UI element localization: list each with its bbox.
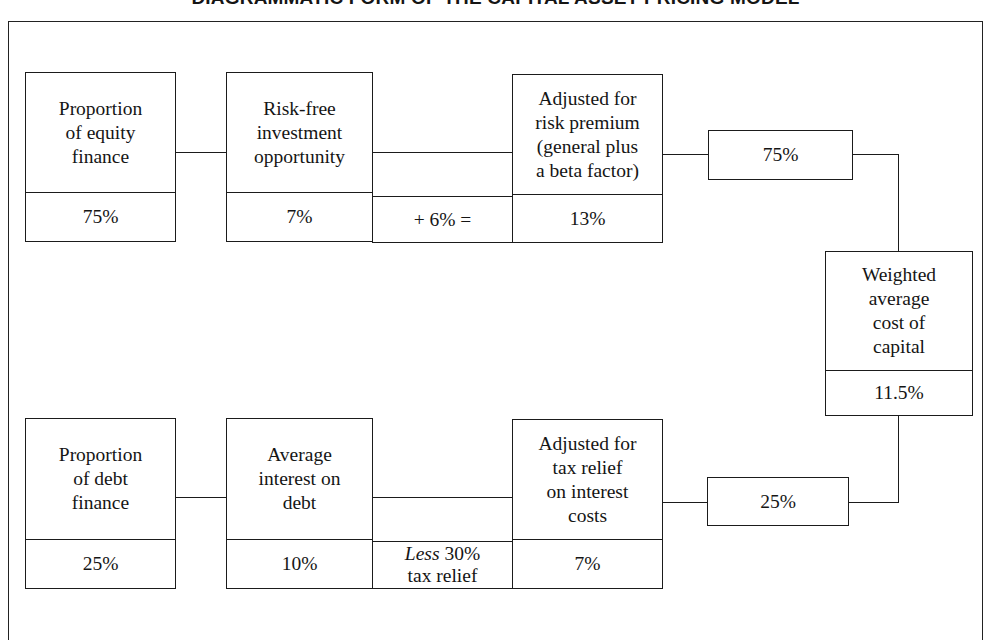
debt-operator-cell: Less 30%tax relief — [372, 541, 513, 589]
box-equity-weight-value: 75% — [763, 144, 799, 166]
connector-equity-drop — [898, 154, 899, 252]
box-debt-weight[interactable]: 25% — [707, 477, 849, 526]
box-average-interest-debt-label: Averageinterest ondebt — [227, 419, 372, 539]
box-adjusted-tax-relief-value: 7% — [513, 539, 662, 588]
box-equity-weight[interactable]: 75% — [708, 130, 853, 180]
box-risk-free-investment-value: 7% — [227, 192, 372, 241]
connector-debt-drop — [898, 415, 899, 503]
equity-operator-text: + 6% = — [414, 209, 472, 231]
box-proportion-equity[interactable]: Proportionof equityfinance 75% — [25, 72, 176, 242]
box-adjusted-tax-relief-label: Adjusted fortax reliefon interestcosts — [513, 420, 662, 539]
box-proportion-debt-value: 25% — [26, 539, 175, 588]
connector-equity-2 — [371, 152, 513, 153]
box-proportion-equity-label: Proportionof equityfinance — [26, 73, 175, 192]
box-average-interest-debt-value: 10% — [227, 539, 372, 588]
box-average-interest-debt[interactable]: Averageinterest ondebt 10% — [226, 418, 373, 589]
box-weighted-average-cost-of-capital[interactable]: Weightedaveragecost ofcapital 11.5% — [825, 251, 973, 416]
connector-equity-3 — [661, 154, 709, 155]
box-adjusted-risk-premium[interactable]: Adjusted forrisk premium(general plusa b… — [512, 74, 663, 243]
connector-debt-3 — [661, 502, 709, 503]
wacc-label: Weightedaveragecost ofcapital — [826, 252, 972, 370]
wacc-value: 11.5% — [826, 370, 972, 415]
connector-equity-1 — [175, 152, 227, 153]
box-risk-free-investment-label: Risk-freeinvestmentopportunity — [227, 73, 372, 192]
debt-operator-emphasis: Less — [405, 543, 440, 564]
box-proportion-debt-label: Proportionof debtfinance — [26, 419, 175, 539]
equity-operator-cell: + 6% = — [372, 196, 513, 243]
debt-operator-text: Less 30%tax relief — [405, 543, 480, 587]
box-debt-weight-value: 25% — [760, 491, 796, 513]
connector-debt-1 — [175, 497, 227, 498]
box-adjusted-tax-relief[interactable]: Adjusted fortax reliefon interestcosts 7… — [512, 419, 663, 589]
diagram-page: DIAGRAMMATIC FORM OF THE CAPITAL ASSET P… — [0, 0, 991, 640]
box-adjusted-risk-premium-label: Adjusted forrisk premium(general plusa b… — [513, 75, 662, 194]
page-title: DIAGRAMMATIC FORM OF THE CAPITAL ASSET P… — [0, 0, 991, 9]
box-risk-free-investment[interactable]: Risk-freeinvestmentopportunity 7% — [226, 72, 373, 242]
box-adjusted-risk-premium-value: 13% — [513, 194, 662, 242]
connector-debt-4 — [848, 502, 899, 503]
connector-debt-2 — [371, 497, 513, 498]
box-proportion-equity-value: 75% — [26, 192, 175, 241]
box-proportion-debt[interactable]: Proportionof debtfinance 25% — [25, 418, 176, 589]
connector-equity-4 — [851, 154, 899, 155]
